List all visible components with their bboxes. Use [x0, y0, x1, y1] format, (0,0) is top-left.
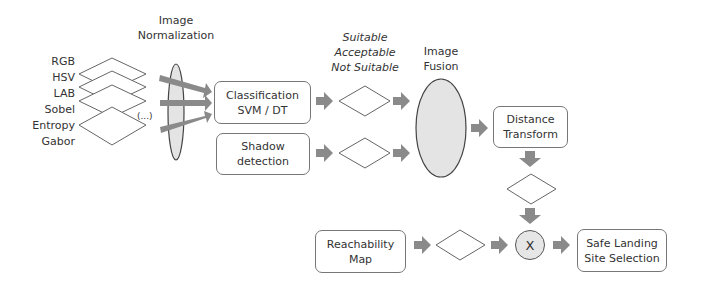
- reachability-line2: Map: [349, 252, 372, 267]
- reachability-map-box: Reachability Map: [315, 230, 406, 273]
- reachability-output-diamond: [436, 230, 485, 260]
- fusion-label-line1: Image: [416, 45, 466, 59]
- shadow-line1: Shadow: [241, 139, 284, 154]
- reachability-line1: Reachability: [327, 237, 394, 252]
- feature-label-gabor: Gabor: [30, 135, 75, 149]
- distance-transform-box: Distance Transform: [493, 106, 568, 148]
- output-line2: Site Selection: [584, 251, 659, 266]
- classification-method: SVM / DT: [238, 103, 288, 118]
- normalization-label-line1: Image: [136, 14, 216, 28]
- safe-landing-site-selection-box: Safe Landing Site Selection: [577, 229, 667, 272]
- distance-output-diamond: [507, 174, 556, 204]
- feature-label-hsv: HSV: [30, 71, 75, 85]
- arrow-shadow-to-diamond: [316, 144, 333, 162]
- fusion-ellipse: [416, 79, 466, 177]
- features-ellipsis: (...): [137, 109, 153, 123]
- arrow-shadow-diamond-to-fusion: [393, 144, 410, 162]
- shadow-detection-box: Shadow detection: [216, 133, 310, 175]
- normalization-arrows: [159, 75, 212, 133]
- classification-output-diamond: [339, 86, 390, 116]
- fusion-label-line2: Fusion: [416, 60, 466, 74]
- distance-line2: Transform: [503, 127, 558, 142]
- distance-line1: Distance: [506, 112, 554, 127]
- class-label-not-suitable: Not Suitable: [325, 61, 405, 75]
- feature-label-rgb: RGB: [30, 55, 75, 69]
- arrow-diamond-to-combine: [519, 208, 541, 224]
- combine-operator-circle: X: [515, 230, 545, 260]
- feature-label-entropy: Entropy: [20, 119, 75, 133]
- arrow-distance-to-diamond: [519, 151, 541, 167]
- normalization-label-line2: Normalization: [136, 29, 216, 43]
- shadow-output-diamond: [339, 138, 390, 168]
- shadow-line2: detection: [237, 154, 289, 169]
- arrow-classification-to-diamond: [316, 92, 333, 110]
- class-label-suitable: Suitable: [330, 31, 400, 45]
- input-feature-layers: [79, 58, 146, 145]
- class-label-acceptable: Acceptable: [330, 46, 400, 60]
- feature-label-sobel: Sobel: [30, 103, 75, 117]
- combine-symbol: X: [526, 238, 535, 253]
- arrow-combine-to-output: [553, 236, 570, 254]
- arrow-fusion-to-distance: [471, 119, 488, 137]
- arrow-diamond-to-fusion: [393, 92, 410, 110]
- feature-label-lab: LAB: [30, 87, 75, 101]
- output-line1: Safe Landing: [586, 236, 658, 251]
- classification-title: Classification: [226, 88, 299, 103]
- arrow-reachability-diamond-to-combine: [491, 236, 508, 254]
- classification-box: Classification SVM / DT: [214, 81, 311, 124]
- arrow-reachability-to-diamond: [414, 236, 431, 254]
